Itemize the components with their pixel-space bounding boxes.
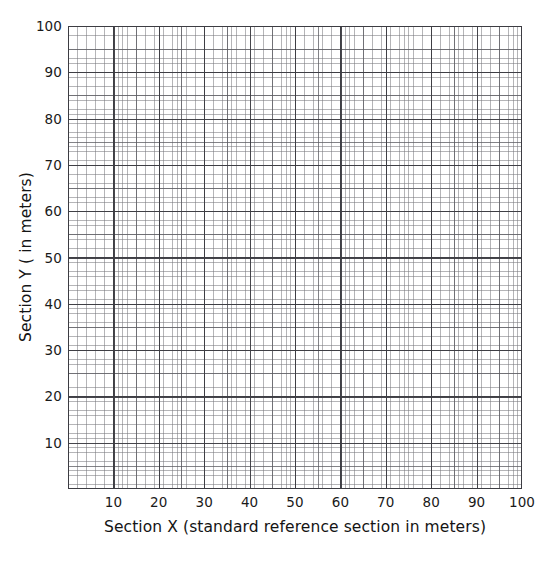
- x-tick-label: 10: [105, 494, 122, 510]
- grid-major-lines: [68, 26, 522, 489]
- x-tick-label: 70: [377, 494, 394, 510]
- plot-area: [68, 26, 522, 489]
- x-tick-label: 80: [422, 494, 439, 510]
- y-tick-label: 40: [45, 296, 62, 312]
- y-tick-label: 10: [45, 435, 62, 451]
- x-tick-label: 30: [195, 494, 212, 510]
- y-tick-label: 30: [45, 342, 62, 358]
- x-tick-label: 90: [468, 494, 485, 510]
- y-tick-label: 80: [45, 111, 62, 127]
- y-tick-label: 90: [45, 64, 62, 80]
- y-tick-label: 50: [45, 250, 62, 266]
- x-tick-label: 40: [241, 494, 258, 510]
- chart-figure: 102030405060708090100 100908070605040302…: [0, 0, 552, 571]
- y-tick-label: 20: [45, 388, 62, 404]
- y-tick-label: 60: [45, 203, 62, 219]
- x-tick-label: 60: [332, 494, 349, 510]
- x-tick-label: 20: [150, 494, 167, 510]
- y-tick-label: 100: [36, 18, 62, 34]
- y-axis-title: Section Y ( in meters): [17, 127, 35, 387]
- y-tick-label: 70: [45, 157, 62, 173]
- x-tick-label: 100: [509, 494, 535, 510]
- x-axis-title: Section X (standard reference section in…: [68, 518, 522, 536]
- x-tick-label: 50: [286, 494, 303, 510]
